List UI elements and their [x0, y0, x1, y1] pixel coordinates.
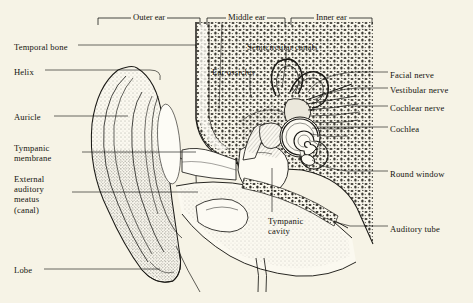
auricle-pinna [85, 60, 196, 295]
bracket-label-outer-ear: Outer ear [131, 13, 167, 22]
mastoid-and-jaw-mass [176, 178, 356, 292]
ear-anatomy-figure [0, 0, 473, 303]
bracket-label-middle-ear: Middle ear [226, 13, 267, 22]
bracket-label-inner-ear: Inner ear [314, 13, 349, 22]
